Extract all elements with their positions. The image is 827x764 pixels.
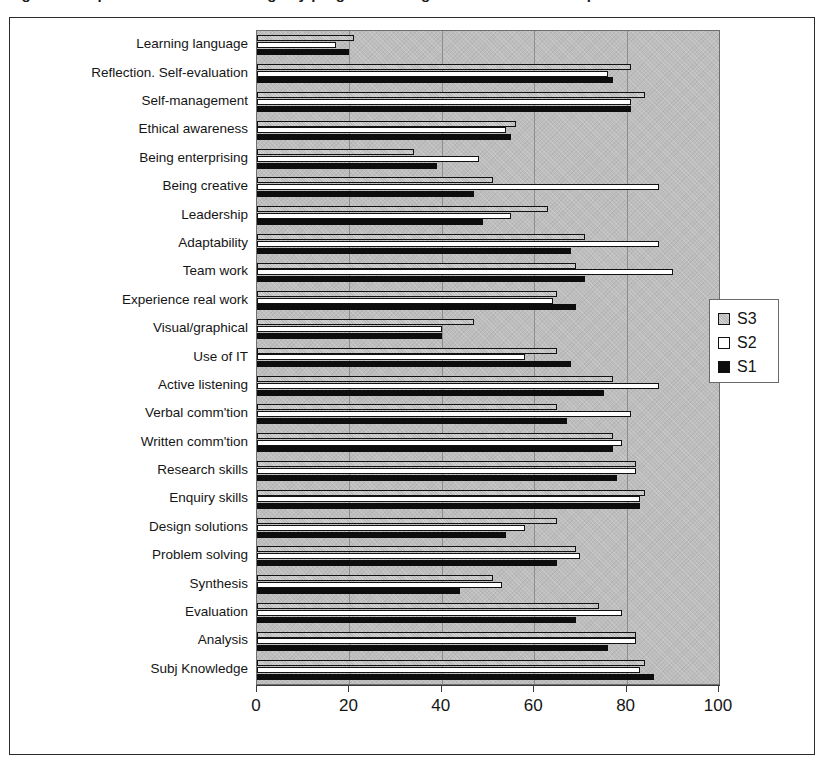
bar-group [257,570,719,598]
y-axis-label: Experience real work [122,293,248,307]
bar-s3 [257,404,557,410]
bar-s2 [257,383,659,389]
y-axis-label: Use of IT [193,350,248,364]
bar-s1 [257,560,557,566]
bar-s3 [257,461,636,467]
bar-s3 [257,433,613,439]
bar-group [257,173,719,201]
y-axis-label: Verbal comm'tion [145,406,248,420]
y-axis-label: Research skills [157,463,248,477]
bar-group [257,457,719,485]
page-title-strip: Figure: Comparison of student ratings by… [0,0,827,16]
bar-s1 [257,163,437,169]
y-axis-category-labels: Learning languageReflection. Self-evalua… [18,30,252,685]
y-axis-label: Being creative [162,179,248,193]
bar-s3 [257,660,645,666]
bar-s1 [257,532,506,538]
bar-s2 [257,496,640,502]
bar-group [257,59,719,87]
bar-group [257,542,719,570]
bar-s3 [257,149,414,155]
bar-s1 [257,304,576,310]
bar-s2 [257,440,622,446]
bar-s1 [257,475,617,481]
bar-s1 [257,617,576,623]
bar-s2 [257,553,580,559]
bar-s3 [257,92,645,98]
bar-s1 [257,418,567,424]
bar-s2 [257,213,511,219]
bar-s1 [257,276,585,282]
legend-swatch-icon [718,337,730,349]
x-axis-line [256,685,720,686]
bar-s1 [257,645,608,651]
bar-group [257,343,719,371]
bar-s1 [257,333,442,339]
page-title: Figure: Comparison of student ratings by… [8,0,653,2]
y-axis-label: Written comm'tion [141,435,248,449]
bar-s2 [257,638,636,644]
legend-swatch-icon [718,313,730,325]
bar-s2 [257,411,631,417]
bar-s1 [257,49,349,55]
bar-s2 [257,156,479,162]
y-axis-label: Analysis [198,633,248,647]
bar-s3 [257,518,557,524]
bar-s1 [257,77,613,83]
bar-group [257,428,719,456]
legend-item-s3[interactable]: S3 [718,307,778,331]
bar-s3 [257,177,493,183]
bar-s1 [257,674,654,680]
x-tick-label: 0 [251,696,260,716]
bar-s1 [257,191,474,197]
bar-group [257,372,719,400]
bar-s3 [257,632,636,638]
bar-group [257,31,719,59]
legend-label: S2 [737,335,757,351]
bar-s2 [257,468,636,474]
y-axis-label: Adaptability [178,236,248,250]
bar-group [257,599,719,627]
legend-item-s1[interactable]: S1 [718,355,778,379]
bar-group [257,88,719,116]
bar-s2 [257,667,640,673]
y-axis-label: Leadership [181,208,248,222]
bar-group [257,201,719,229]
bar-group [257,627,719,655]
bar-s3 [257,546,576,552]
x-tick-20 [348,685,349,692]
y-axis-label: Self-management [141,94,248,108]
bar-s2 [257,269,673,275]
bar-group [257,656,719,684]
bar-s2 [257,525,525,531]
bar-s2 [257,99,631,105]
legend-item-s2[interactable]: S2 [718,331,778,355]
x-tick-60 [533,685,534,692]
y-axis-label: Ethical awareness [138,122,248,136]
bar-s1 [257,106,631,112]
bar-s1 [257,248,571,254]
bar-s1 [257,219,483,225]
bar-group [257,230,719,258]
x-tick-label: 20 [339,696,358,716]
bar-s3 [257,263,576,269]
bar-s3 [257,64,631,70]
x-tick-label: 60 [524,696,543,716]
bar-s3 [257,35,354,41]
y-axis-label: Visual/graphical [153,321,248,335]
bar-group [257,287,719,315]
bar-s2 [257,127,506,133]
bar-s2 [257,610,622,616]
bar-group [257,145,719,173]
y-axis-label: Synthesis [189,577,248,591]
bar-s3 [257,575,493,581]
y-axis-label: Design solutions [149,520,248,534]
bar-s1 [257,361,571,367]
x-tick-label: 80 [616,696,635,716]
bar-s3 [257,348,557,354]
bar-s3 [257,376,613,382]
bar-group [257,315,719,343]
bar-s3 [257,603,599,609]
x-tick-label: 100 [704,696,732,716]
y-axis-label: Team work [183,264,248,278]
